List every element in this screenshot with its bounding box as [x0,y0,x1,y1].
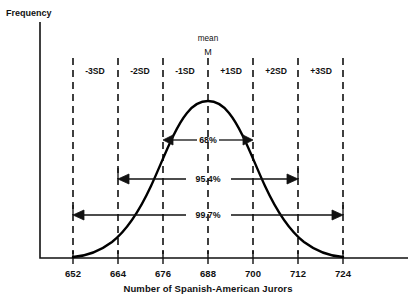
sd-band-label-plus2: +2SD [265,66,287,76]
interval-label-997: 99.7% [196,210,221,220]
x-tick-label-1: 664 [110,268,127,279]
x-tick-label-2: 676 [155,268,171,279]
interval-label-95: 95.4% [196,174,221,184]
x-axis-title: Number of Spanish-American Jurors [123,283,292,294]
y-axis-title: Frequency [6,8,52,18]
x-tick-label-0: 652 [65,268,81,279]
x-tick-label-6: 724 [335,268,352,279]
sd-boundary-lines [73,58,343,254]
x-tick-label-3: 688 [200,268,216,279]
interval-label-68: 68% [199,135,217,145]
x-tick-label-4: 700 [245,268,261,279]
sd-band-label-minus2: -2SD [130,66,150,76]
normal-distribution-chart: Frequency -3SD -2SD -1SD +1SD +2S [0,0,416,299]
x-tick-label-5: 712 [290,268,306,279]
mean-label-symbol: M [204,47,212,57]
sd-band-label-minus3: -3SD [85,66,105,76]
mean-label-text: mean [198,34,219,43]
sd-band-label-plus3: +3SD [310,66,332,76]
sd-band-label-minus1: -1SD [175,66,195,76]
sd-band-label-plus1: +1SD [220,66,242,76]
chart-svg: Frequency -3SD -2SD -1SD +1SD +2S [0,0,416,299]
interval-annotation-68: 68% [163,135,253,145]
